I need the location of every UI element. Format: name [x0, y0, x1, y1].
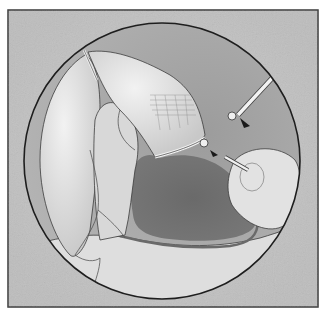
- tissue-clip: [200, 139, 208, 147]
- medical-illustration: [0, 0, 324, 314]
- illustration-stage: [0, 0, 324, 314]
